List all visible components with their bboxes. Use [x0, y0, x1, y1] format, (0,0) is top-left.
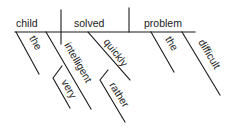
sentence-diagram: child solved problem the intelligent ver… — [0, 0, 238, 134]
subject-article-word: the — [27, 33, 45, 52]
adjective-adverb-word: very — [59, 77, 80, 101]
verb-word: solved — [74, 17, 105, 29]
adverb-adverb-word: rather — [107, 80, 132, 110]
object-article-word: the — [163, 34, 181, 53]
object-word: problem — [144, 17, 182, 29]
object-adjective-word: difficult — [196, 37, 223, 71]
subject-word: child — [16, 17, 38, 29]
